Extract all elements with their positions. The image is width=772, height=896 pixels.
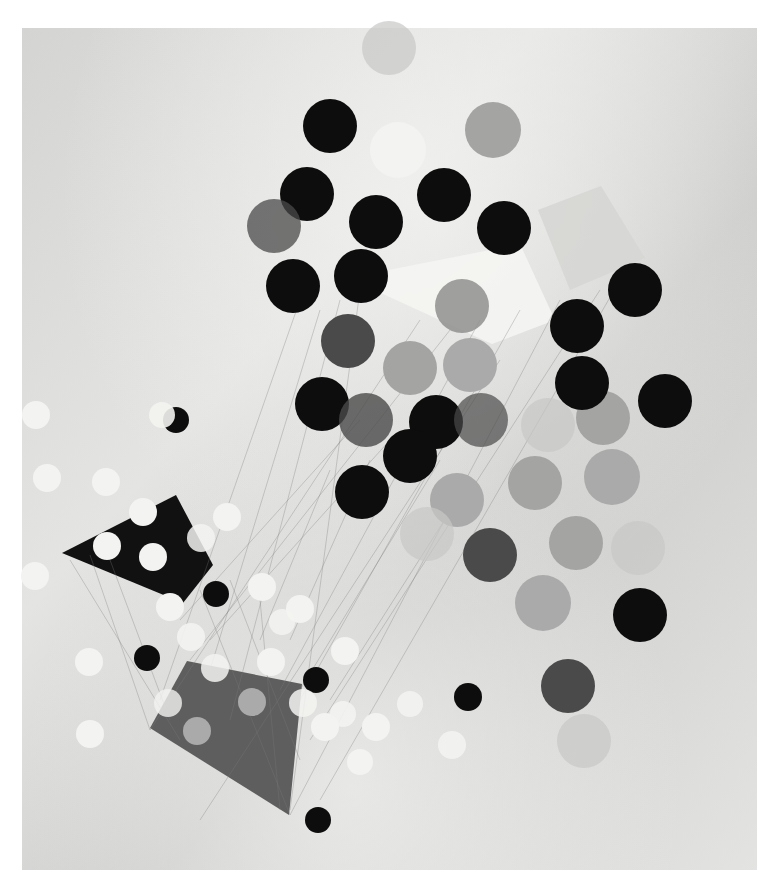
circle-white: [248, 573, 276, 601]
circle-white: [22, 401, 50, 429]
circle-dark: [463, 528, 517, 582]
circle-black: [203, 581, 229, 607]
circle-black: [335, 465, 389, 519]
circle-black: [305, 807, 331, 833]
circle-mid: [435, 279, 489, 333]
circle-dark: [454, 393, 508, 447]
circle-white: [362, 713, 390, 741]
circle-dark: [321, 314, 375, 368]
circle-white: [177, 623, 205, 651]
circle-black: [477, 201, 531, 255]
circle-white: [257, 648, 285, 676]
abstract-painting: [0, 0, 772, 896]
circle-dark: [541, 659, 595, 713]
circle-white: [331, 637, 359, 665]
circle-dark: [247, 199, 301, 253]
circle-white: [269, 609, 295, 635]
circle-black: [638, 374, 692, 428]
circle-black: [417, 168, 471, 222]
circle-dark: [339, 393, 393, 447]
circle-white: [75, 648, 103, 676]
circle-faint: [557, 714, 611, 768]
circle-light_gray: [443, 338, 497, 392]
circle-faint: [400, 507, 454, 561]
circle-black: [383, 429, 437, 483]
circle-light_gray: [584, 449, 640, 505]
circle-white: [93, 532, 121, 560]
circle-black: [349, 195, 403, 249]
circle-white: [370, 122, 426, 178]
circle-black: [550, 299, 604, 353]
circle-textured: [549, 516, 603, 570]
circle-faint: [611, 521, 665, 575]
circle-faint: [362, 21, 416, 75]
circle-white: [213, 503, 241, 531]
circle-black: [613, 588, 667, 642]
circle-white: [156, 593, 184, 621]
circle-white: [187, 524, 215, 552]
circle-white: [347, 749, 373, 775]
circle-light_gray: [238, 688, 266, 716]
circle-black: [334, 249, 388, 303]
circle-white: [201, 654, 229, 682]
circle-black: [555, 356, 609, 410]
circle-textured: [508, 456, 562, 510]
circle-faint: [521, 398, 575, 452]
circle-white: [289, 689, 317, 717]
circle-white: [33, 464, 61, 492]
circle-textured: [465, 102, 521, 158]
circle-white: [438, 731, 466, 759]
circle-white: [311, 713, 339, 741]
circle-textured: [383, 341, 437, 395]
circle-light_gray: [515, 575, 571, 631]
circle-white: [139, 543, 167, 571]
circle-light_gray: [183, 717, 211, 745]
circle-white: [154, 689, 182, 717]
circle-white: [397, 691, 423, 717]
circle-white: [92, 468, 120, 496]
circle-white: [149, 402, 175, 428]
circle-black: [134, 645, 160, 671]
circle-white: [76, 720, 104, 748]
circle-white: [21, 562, 49, 590]
circle-black: [608, 263, 662, 317]
circle-black: [303, 99, 357, 153]
circle-black: [303, 667, 329, 693]
circle-black: [454, 683, 482, 711]
circle-white: [129, 498, 157, 526]
circle-black: [266, 259, 320, 313]
